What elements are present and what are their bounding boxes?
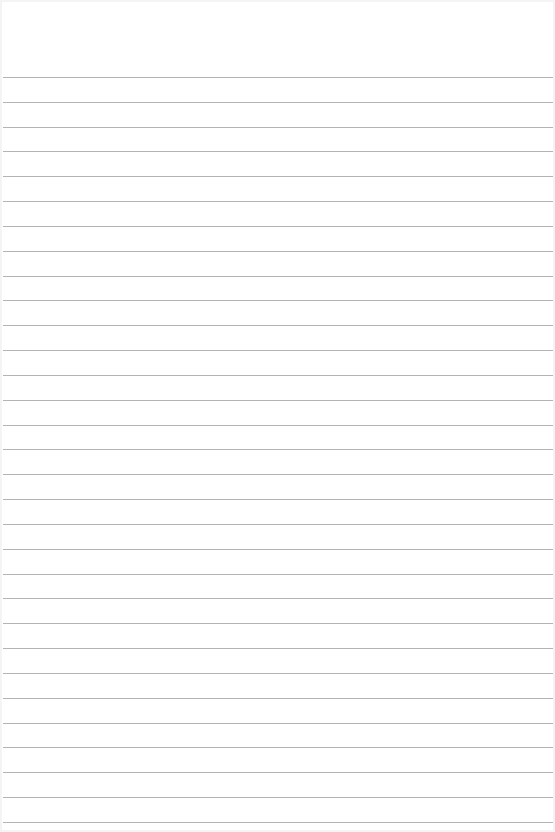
ruled-line bbox=[3, 574, 553, 575]
ruled-line bbox=[3, 772, 553, 773]
ruled-line bbox=[3, 127, 553, 128]
ruled-line bbox=[3, 425, 553, 426]
ruled-line bbox=[3, 623, 553, 624]
ruled-line bbox=[3, 449, 553, 450]
ruled-line bbox=[3, 598, 553, 599]
ruled-line bbox=[3, 350, 553, 351]
ruled-line bbox=[3, 176, 553, 177]
ruled-line bbox=[3, 400, 553, 401]
ruled-line bbox=[3, 524, 553, 525]
lined-paper-sheet bbox=[2, 2, 553, 830]
ruled-line bbox=[3, 822, 553, 823]
ruled-line bbox=[3, 276, 553, 277]
ruled-line bbox=[3, 77, 553, 78]
ruled-line bbox=[3, 673, 553, 674]
ruled-line bbox=[3, 102, 553, 103]
ruled-line bbox=[3, 325, 553, 326]
ruled-line bbox=[3, 723, 553, 724]
ruled-line bbox=[3, 747, 553, 748]
ruled-line bbox=[3, 549, 553, 550]
ruled-line bbox=[3, 698, 553, 699]
ruled-line bbox=[3, 499, 553, 500]
ruled-line bbox=[3, 797, 553, 798]
ruled-line bbox=[3, 648, 553, 649]
ruled-line bbox=[3, 226, 553, 227]
ruled-line bbox=[3, 474, 553, 475]
ruled-line bbox=[3, 201, 553, 202]
ruled-line bbox=[3, 300, 553, 301]
ruled-line bbox=[3, 151, 553, 152]
ruled-line bbox=[3, 375, 553, 376]
ruled-line bbox=[3, 251, 553, 252]
